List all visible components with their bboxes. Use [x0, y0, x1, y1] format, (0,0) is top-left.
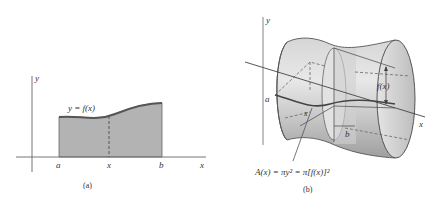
- panel-b: y x f(x) a x b A(x) = πy² = π[f(x)]²: [245, 15, 425, 194]
- curve-label: y = f(x): [67, 103, 95, 113]
- tick-label-b: b: [159, 160, 164, 170]
- label-x-b: x: [303, 109, 308, 118]
- caption-a: (a): [83, 181, 92, 190]
- panel-a: y x y = f(x) a x b (a): [16, 73, 206, 190]
- label-a-b: a: [265, 94, 270, 104]
- area-formula: A(x) = πy² = π[f(x)]²: [254, 167, 330, 177]
- tick-label-x: x: [106, 160, 111, 170]
- figure-canvas: y x y = f(x) a x b (a) y x: [0, 0, 433, 201]
- caption-b: (b): [303, 185, 313, 194]
- radius-label: f(x): [377, 81, 390, 91]
- y-axis-label-b: y: [265, 15, 270, 25]
- label-b-b: b: [345, 129, 350, 139]
- x-axis-label-a: x: [199, 160, 204, 170]
- x-axis-label-b: x: [418, 119, 423, 129]
- right-end-cap: [377, 40, 415, 158]
- y-axis-label-a: y: [34, 73, 39, 83]
- tick-label-a: a: [56, 160, 61, 170]
